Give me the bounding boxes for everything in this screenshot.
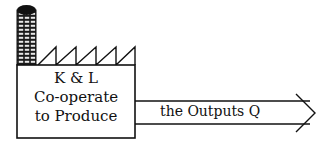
sawtooth-roof [38,47,135,65]
chimney-icon [17,5,36,65]
factory-label-line2: Co-operate [17,88,135,107]
output-arrow-label: the Outputs Q [160,103,260,119]
factory-label-line1: K & L [17,69,135,88]
factory-label-line3: to Produce [17,107,135,126]
